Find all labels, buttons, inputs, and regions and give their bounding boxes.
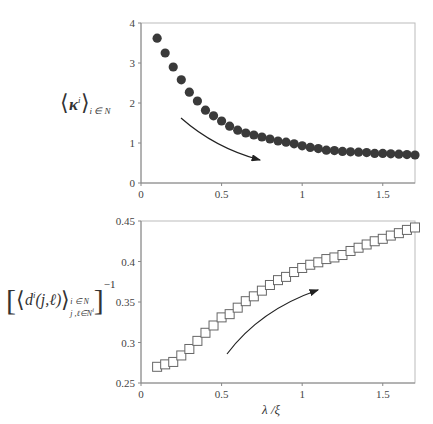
data-point: [265, 134, 274, 143]
y-tick-label: 0.45: [116, 215, 136, 227]
y-tick-label: 0.4: [121, 256, 135, 268]
data-point: [394, 150, 403, 159]
data-point: [273, 136, 282, 145]
data-point: [314, 144, 323, 153]
top-x-ticks: 00.511.5: [138, 183, 390, 200]
data-point: [306, 143, 315, 152]
data-point: [153, 34, 162, 43]
x-tick-label: 1: [299, 188, 305, 200]
y-tick-label: 0.25: [116, 377, 136, 389]
data-point: [177, 75, 186, 84]
data-point: [402, 150, 411, 159]
top-y-ticks: 01234: [130, 17, 142, 189]
data-point: [281, 138, 290, 147]
data-point: [290, 139, 299, 148]
data-point: [386, 149, 395, 158]
chart-canvas: 01234 00.511.5 0.250.30.350.40.45 00.511…: [0, 0, 433, 424]
data-point: [257, 132, 266, 141]
x-tick-label: 1: [299, 388, 305, 400]
data-point: [410, 150, 419, 159]
data-point: [185, 88, 194, 97]
x-tick-label: 0.5: [215, 388, 229, 400]
data-point: [411, 223, 420, 232]
data-point: [338, 147, 347, 156]
top-plot-frame: [141, 23, 415, 183]
bottom-data-points: [153, 223, 420, 371]
x-tick-label: 0: [138, 188, 144, 200]
top-data-points: [153, 34, 420, 160]
data-point: [370, 149, 379, 158]
top-plot: 01234 00.511.5: [130, 17, 420, 200]
data-point: [249, 130, 258, 139]
x-tick-label: 1.5: [376, 188, 390, 200]
data-point: [225, 122, 234, 131]
data-point: [201, 106, 210, 115]
x-tick-label: 0.5: [215, 188, 229, 200]
bottom-y-ticks: 0.250.30.350.40.45: [116, 215, 141, 389]
data-point: [298, 141, 307, 150]
data-point: [193, 96, 202, 105]
bottom-x-label: λ /ξ: [262, 402, 280, 418]
data-point: [346, 147, 355, 156]
top-y-label: ⟨κi⟩i ∈ N: [60, 90, 111, 116]
bottom-plot: 0.250.30.350.40.45 00.511.5: [116, 215, 420, 400]
data-point: [330, 146, 339, 155]
data-point: [209, 111, 218, 120]
data-point: [362, 148, 371, 157]
y-tick-label: 4: [130, 17, 136, 29]
y-tick-label: 0.3: [121, 337, 135, 349]
data-point: [217, 116, 226, 125]
y-tick-label: 3: [130, 57, 136, 69]
trend-arrow-up-icon: [227, 290, 318, 354]
bottom-y-label: [⟨di(j,ℓ)⟩i ∈ Nj ,ℓ∈Ni]−1: [6, 283, 116, 318]
data-point: [354, 148, 363, 157]
data-point: [233, 126, 242, 135]
data-point: [322, 146, 331, 155]
data-point: [161, 48, 170, 57]
y-tick-label: 2: [130, 97, 136, 109]
x-tick-label: 0: [138, 388, 144, 400]
data-point: [169, 62, 178, 71]
y-tick-label: 1: [130, 137, 136, 149]
data-point: [241, 128, 250, 137]
x-tick-label: 1.5: [376, 388, 390, 400]
bottom-x-ticks: 00.511.5: [138, 383, 390, 400]
y-tick-label: 0.35: [116, 296, 136, 308]
y-tick-label: 0: [130, 177, 136, 189]
data-point: [378, 149, 387, 158]
